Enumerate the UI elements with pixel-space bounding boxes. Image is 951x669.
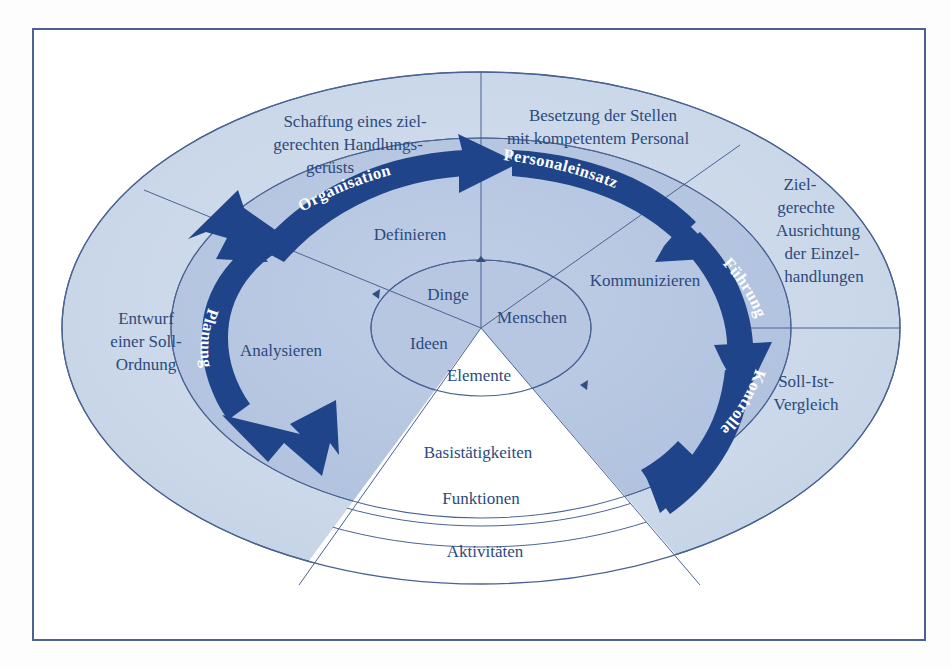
label-menschen: Menschen [497,308,567,327]
svg-text:handlungen: handlungen [784,267,864,286]
svg-text:Ausrichtung: Ausrichtung [776,221,861,240]
svg-text:einer Soll-: einer Soll- [110,332,182,351]
label-ideen: Ideen [410,334,448,353]
svg-text:gerechte: gerechte [777,198,835,217]
svg-text:Besetzung der Stellen: Besetzung der Stellen [529,106,678,125]
svg-text:Soll-Ist-: Soll-Ist- [778,372,834,391]
label-kommunizieren: Kommunizieren [590,271,701,290]
svg-text:Vergleich: Vergleich [774,395,839,414]
management-cycle-diagram: Organisation Personaleinsatz Führung Kon… [0,0,951,669]
svg-text:Ordnung: Ordnung [116,355,177,374]
svg-text:Aktivitäten: Aktivitäten [447,542,524,561]
label-analysieren: Analysieren [240,341,323,360]
svg-text:gerüsts: gerüsts [306,158,354,177]
svg-text:Ziel-: Ziel- [783,175,816,194]
svg-text:der Einzel-: der Einzel- [784,244,859,263]
label-funktionen: Funktionen [442,489,520,508]
label-definieren: Definieren [374,225,447,244]
label-elemente: Elemente [447,366,511,385]
label-dinge: Dinge [427,285,469,304]
label-aktivitaeten: Aktivitäten [447,542,524,561]
svg-text:Entwurf: Entwurf [118,309,174,328]
svg-text:gerechten Handlungs-: gerechten Handlungs- [273,135,423,154]
figure-canvas: Organisation Personaleinsatz Führung Kon… [0,0,951,669]
label-entwurf-einer-soll-ordnung: Entwurf einer Soll- Ordnung [110,309,182,374]
band-captions: Funktionen [442,489,520,508]
svg-text:Schaffung eines ziel-: Schaffung eines ziel- [283,112,427,131]
label-basistaetigkeiten: Basistätigkeiten [424,443,533,462]
svg-text:mit kompetentem Personal: mit kompetentem Personal [507,129,690,148]
